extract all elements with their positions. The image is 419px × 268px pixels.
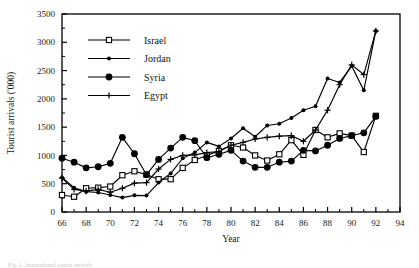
- x-tick-label: 78: [202, 218, 212, 228]
- data-point-plus: [131, 180, 137, 186]
- chart-legend: IsraelJordanSyriaEgypt: [88, 35, 171, 102]
- data-point-large-filled-circle: [107, 160, 114, 167]
- plot-frame: [62, 14, 400, 212]
- data-point-small-filled-circle: [277, 122, 281, 126]
- data-point-open-square: [325, 135, 330, 140]
- data-point-open-square: [168, 177, 173, 182]
- data-point-small-filled-circle: [314, 104, 318, 108]
- x-tick-label: 70: [106, 218, 116, 228]
- figure-container: 0500100015002000250030003500666870727476…: [0, 0, 419, 268]
- data-point-plus: [264, 134, 270, 140]
- data-point-large-filled-circle: [131, 150, 138, 157]
- legend-label-egypt: Egypt: [144, 90, 168, 101]
- data-point-small-filled-circle: [229, 136, 233, 140]
- data-point-small-filled-circle: [120, 196, 124, 200]
- data-point-large-filled-circle: [312, 148, 319, 155]
- data-point-open-square: [277, 152, 282, 157]
- data-point-open-square: [59, 192, 64, 197]
- x-tick-label: 88: [323, 218, 333, 228]
- data-point-small-filled-circle: [169, 172, 173, 176]
- data-point-small-filled-circle: [301, 108, 305, 112]
- data-point-large-filled-circle: [360, 129, 367, 136]
- data-point-open-square: [253, 153, 258, 158]
- data-point-small-filled-circle: [205, 140, 209, 144]
- data-point-small-filled-circle: [145, 194, 149, 198]
- data-point-plus: [252, 136, 258, 142]
- data-point-large-filled-circle: [300, 147, 307, 154]
- x-tick-label: 74: [154, 218, 164, 228]
- data-point-large-filled-circle: [288, 158, 295, 165]
- y-tick-label: 3500: [37, 9, 56, 19]
- data-point-large-filled-circle: [179, 134, 186, 141]
- data-point-plus: [106, 92, 112, 98]
- data-point-open-square: [106, 37, 111, 42]
- data-point-large-filled-circle: [155, 156, 162, 163]
- y-tick-label: 3000: [37, 37, 56, 47]
- series-egypt: [59, 28, 379, 195]
- y-tick-label: 0: [51, 207, 56, 217]
- series-jordan: [60, 29, 378, 200]
- data-point-plus: [119, 185, 125, 191]
- legend-label-israel: Israel: [144, 35, 166, 46]
- data-point-open-square: [108, 184, 113, 189]
- data-point-large-filled-circle: [252, 164, 259, 171]
- data-point-plus: [337, 82, 343, 88]
- x-tick-label: 94: [396, 218, 406, 228]
- data-point-large-filled-circle: [324, 142, 331, 149]
- data-point-small-filled-circle: [132, 193, 136, 197]
- data-point-large-filled-circle: [119, 134, 126, 141]
- data-point-large-filled-circle: [59, 155, 66, 162]
- data-point-small-filled-circle: [157, 181, 161, 185]
- data-point-large-filled-circle: [191, 137, 198, 144]
- y-tick-label: 2000: [37, 94, 56, 104]
- y-tick-label: 1000: [37, 151, 56, 161]
- data-point-small-filled-circle: [362, 88, 366, 92]
- x-tick-label: 84: [275, 218, 285, 228]
- data-point-open-square: [265, 158, 270, 163]
- data-point-large-filled-circle: [95, 163, 102, 170]
- y-tick-label: 500: [42, 179, 56, 189]
- data-point-large-filled-circle: [167, 145, 174, 152]
- data-point-open-square: [132, 169, 137, 174]
- x-tick-label: 86: [299, 218, 309, 228]
- data-point-open-square: [120, 173, 125, 178]
- data-point-large-filled-circle: [276, 159, 283, 166]
- data-point-large-filled-circle: [83, 164, 90, 171]
- data-point-plus: [276, 133, 282, 139]
- data-point-small-filled-circle: [326, 76, 330, 80]
- data-point-plus: [324, 107, 330, 113]
- x-axis-title: Year: [222, 234, 240, 244]
- figure-caption: Fig. 1. International tourist arrivals: [8, 262, 238, 268]
- data-point-large-filled-circle: [143, 171, 150, 178]
- x-tick-label: 80: [227, 218, 237, 228]
- data-point-large-filled-circle: [106, 74, 113, 81]
- x-tick-label: 72: [130, 218, 139, 228]
- data-point-large-filled-circle: [240, 158, 247, 165]
- data-point-large-filled-circle: [71, 159, 78, 166]
- legend-label-jordan: Jordan: [144, 53, 171, 64]
- y-axis-title: Tourist arrivals ('000): [6, 72, 17, 154]
- x-tick-label: 82: [251, 218, 260, 228]
- legend-label-syria: Syria: [144, 72, 166, 83]
- x-tick-label: 66: [58, 218, 68, 228]
- data-point-small-filled-circle: [217, 144, 221, 148]
- data-point-open-square: [180, 165, 185, 170]
- data-point-large-filled-circle: [348, 132, 355, 139]
- y-tick-label: 1500: [37, 122, 56, 132]
- x-tick-label: 92: [371, 218, 380, 228]
- x-tick-label: 90: [347, 218, 357, 228]
- data-point-small-filled-circle: [107, 57, 111, 61]
- data-point-small-filled-circle: [289, 116, 293, 120]
- data-point-small-filled-circle: [265, 123, 269, 127]
- x-tick-label: 68: [82, 218, 92, 228]
- x-tick-label: 76: [178, 218, 188, 228]
- data-point-large-filled-circle: [264, 164, 271, 171]
- data-point-plus: [373, 28, 379, 34]
- data-point-large-filled-circle: [336, 135, 343, 142]
- data-point-open-square: [71, 194, 76, 199]
- data-point-open-square: [240, 145, 245, 150]
- data-point-large-filled-circle: [372, 113, 379, 120]
- y-tick-label: 2500: [37, 66, 56, 76]
- data-point-open-square: [361, 149, 366, 154]
- data-point-small-filled-circle: [241, 126, 245, 130]
